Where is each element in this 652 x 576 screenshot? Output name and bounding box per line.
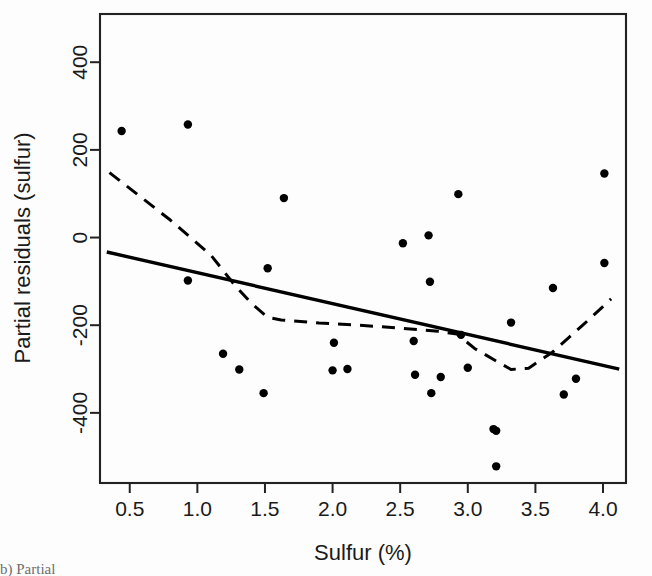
scatter-point — [411, 371, 419, 379]
scatter-point — [263, 264, 271, 272]
scatter-point — [464, 364, 472, 372]
x-tick-label: 2.5 — [386, 497, 415, 520]
y-tick-label: 0 — [68, 232, 91, 244]
x-tick-label: 4.0 — [588, 497, 617, 520]
scatter-point — [219, 350, 227, 358]
scatter-point — [457, 331, 465, 339]
scatter-point — [492, 427, 500, 435]
scatter-point — [507, 318, 515, 326]
x-tick-label: 3.0 — [453, 497, 482, 520]
y-tick-label: -400 — [68, 392, 91, 434]
scatter-point — [330, 339, 338, 347]
scatter-point — [437, 373, 445, 381]
scatter-point — [572, 374, 580, 382]
scatter-point — [259, 389, 267, 397]
scatter-point — [280, 194, 288, 202]
scatter-point — [184, 120, 192, 128]
scatter-point — [454, 190, 462, 198]
figure-root: 0.51.01.52.02.53.03.54.0 4002000-200-400… — [0, 0, 652, 576]
scatter-point — [426, 278, 434, 286]
scatter-point — [560, 390, 568, 398]
scatter-point — [117, 127, 125, 135]
scatter-point — [184, 276, 192, 284]
x-tick-label: 1.5 — [250, 497, 279, 520]
x-tick-label: 3.5 — [521, 497, 550, 520]
scatter-point — [427, 389, 435, 397]
y-tick-label: 200 — [68, 132, 91, 167]
scatter-point — [600, 169, 608, 177]
caption-fragment: b) Partial — [0, 562, 652, 576]
y-axis-title: Partial residuals (sulfur) — [10, 132, 35, 363]
partial-residual-plot: 0.51.01.52.02.53.03.54.0 4002000-200-400… — [0, 0, 652, 576]
scatter-point — [328, 366, 336, 374]
x-tick-label: 1.0 — [183, 497, 212, 520]
scatter-point — [424, 231, 432, 239]
y-tick-label: 400 — [68, 45, 91, 80]
scatter-point — [600, 259, 608, 267]
scatter-point — [492, 462, 500, 470]
y-tick-label: -200 — [68, 304, 91, 346]
scatter-point — [410, 337, 418, 345]
scatter-point — [549, 284, 557, 292]
scatter-point — [235, 365, 243, 373]
scatter-point — [343, 365, 351, 373]
scatter-point — [399, 239, 407, 247]
x-tick-label: 2.0 — [318, 497, 347, 520]
x-tick-label: 0.5 — [115, 497, 144, 520]
